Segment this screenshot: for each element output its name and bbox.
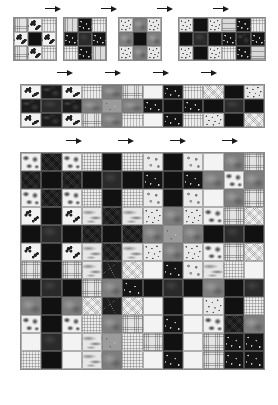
texture-cell	[183, 171, 203, 189]
texture-cell	[224, 279, 244, 297]
texture-cell	[183, 279, 203, 297]
texture-cell	[21, 153, 41, 171]
texture-cell	[163, 113, 183, 127]
texture-cell	[102, 315, 122, 333]
level1-panel-4	[178, 17, 266, 61]
texture-cell	[163, 207, 183, 225]
texture-cell	[122, 261, 142, 279]
texture-cell	[122, 171, 142, 189]
level1-panel-3	[118, 17, 162, 61]
texture-cell	[203, 261, 223, 279]
texture-cell	[163, 225, 183, 243]
texture-cell	[41, 225, 61, 243]
texture-cell	[41, 315, 61, 333]
texture-cell	[183, 113, 203, 127]
texture-cell	[203, 333, 223, 351]
texture-cell	[163, 351, 183, 369]
texture-cell	[82, 351, 102, 369]
texture-cell	[203, 189, 223, 207]
texture-cell	[208, 46, 222, 60]
texture-cell	[21, 297, 41, 315]
texture-cell	[183, 153, 203, 171]
texture-cell	[203, 99, 223, 113]
texture-cell	[41, 99, 61, 113]
texture-cell	[62, 351, 82, 369]
texture-cell	[143, 279, 163, 297]
texture-cell	[28, 46, 42, 60]
right-arrow-icon	[118, 137, 134, 144]
texture-cell	[92, 46, 106, 60]
texture-cell	[78, 32, 92, 46]
texture-cell	[224, 315, 244, 333]
texture-cell	[82, 189, 102, 207]
texture-cell	[41, 351, 61, 369]
right-arrow-icon	[170, 137, 186, 144]
arrow-strip-level2	[0, 134, 278, 144]
texture-cell	[224, 243, 244, 261]
texture-cell	[82, 261, 102, 279]
texture-cell	[21, 333, 41, 351]
texture-cell	[122, 225, 142, 243]
texture-cell	[102, 153, 122, 171]
texture-cell	[244, 113, 264, 127]
texture-cell	[222, 32, 236, 46]
texture-cell	[179, 46, 193, 60]
level1-panel-2	[63, 17, 107, 61]
right-arrow-icon	[222, 137, 238, 144]
right-arrow-icon	[213, 5, 229, 12]
texture-cell	[102, 243, 122, 261]
level1-arrow-band	[0, 0, 278, 14]
texture-cell	[163, 333, 183, 351]
texture-cell	[21, 261, 41, 279]
texture-cell	[122, 99, 142, 113]
texture-cell	[21, 189, 41, 207]
texture-cell	[102, 297, 122, 315]
texture-cell	[82, 279, 102, 297]
texture-cell	[42, 32, 56, 46]
texture-cell	[41, 189, 61, 207]
right-arrow-icon	[66, 137, 82, 144]
texture-cell	[62, 243, 82, 261]
texture-cell	[203, 171, 223, 189]
texture-cell	[244, 171, 264, 189]
texture-cell	[183, 99, 203, 113]
texture-cell	[224, 153, 244, 171]
texture-cell	[163, 153, 183, 171]
texture-cell	[133, 18, 147, 32]
texture-cell	[224, 207, 244, 225]
texture-cell	[82, 243, 102, 261]
texture-cell	[42, 46, 56, 60]
texture-cell	[203, 243, 223, 261]
texture-cell	[41, 243, 61, 261]
texture-cell	[208, 32, 222, 46]
texture-cell	[122, 351, 142, 369]
texture-cell	[102, 189, 122, 207]
texture-cell	[122, 113, 142, 127]
texture-cell	[224, 225, 244, 243]
texture-cell	[163, 99, 183, 113]
texture-cell	[92, 18, 106, 32]
texture-cell	[251, 32, 265, 46]
texture-cell	[224, 113, 244, 127]
texture-cell	[244, 351, 264, 369]
texture-cell	[62, 261, 82, 279]
figure-root	[0, 0, 278, 405]
texture-cell	[244, 315, 264, 333]
right-arrow-icon	[201, 69, 217, 76]
texture-cell	[41, 85, 61, 99]
texture-cell	[183, 85, 203, 99]
texture-cell	[143, 297, 163, 315]
texture-cell	[203, 207, 223, 225]
texture-cell	[203, 153, 223, 171]
texture-cell	[203, 113, 223, 127]
texture-cell	[62, 297, 82, 315]
texture-cell	[28, 18, 42, 32]
texture-cell	[41, 153, 61, 171]
right-arrow-icon	[45, 5, 61, 12]
texture-cell	[143, 315, 163, 333]
texture-cell	[21, 207, 41, 225]
texture-cell	[244, 85, 264, 99]
texture-cell	[64, 18, 78, 32]
texture-cell	[122, 189, 142, 207]
texture-cell	[102, 351, 122, 369]
